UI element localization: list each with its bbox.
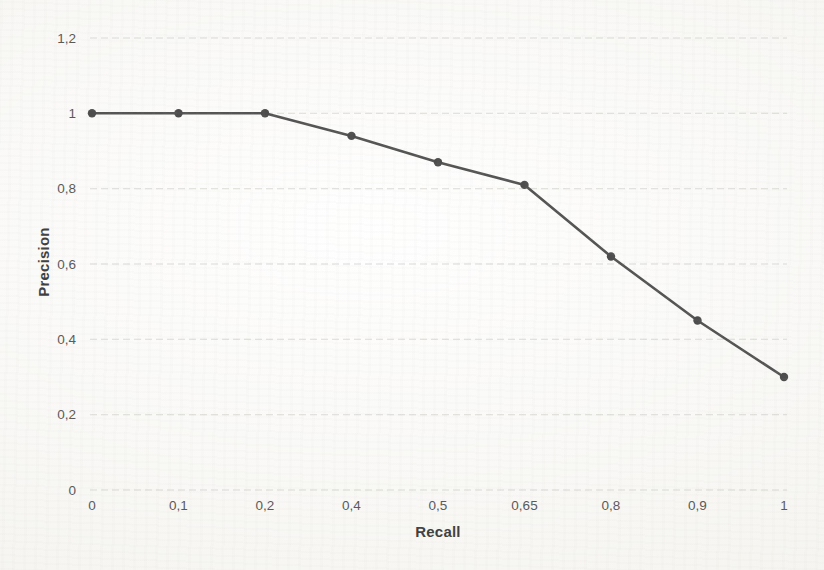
y-tick-label: 1 <box>68 106 76 121</box>
y-tick-label: 0 <box>68 483 76 498</box>
x-axis-title: Recall <box>415 523 460 540</box>
x-tick-label: 1 <box>780 498 788 513</box>
data-point-marker <box>780 373 788 381</box>
data-point-marker <box>174 109 182 117</box>
series-line <box>92 113 784 377</box>
data-point-marker <box>607 252 615 260</box>
x-tick-label: 0,5 <box>429 498 448 513</box>
y-axis-title: Precision <box>35 227 52 296</box>
x-tick-label: 0,9 <box>688 498 707 513</box>
precision-recall-chart: 00,20,40,60,811,200,10,20,40,50,650,80,9… <box>0 0 824 570</box>
data-point-marker <box>261 109 269 117</box>
data-point-marker <box>434 158 442 166</box>
y-tick-label: 0,6 <box>57 257 76 272</box>
x-tick-label: 0,65 <box>511 498 537 513</box>
data-point-marker <box>693 316 701 324</box>
x-tick-label: 0 <box>88 498 96 513</box>
x-tick-label: 0,1 <box>169 498 188 513</box>
data-point-marker <box>520 181 528 189</box>
y-tick-label: 1,2 <box>57 31 76 46</box>
x-tick-label: 0,2 <box>256 498 275 513</box>
data-point-marker <box>88 109 96 117</box>
data-point-marker <box>347 132 355 140</box>
x-tick-label: 0,8 <box>602 498 621 513</box>
y-tick-label: 0,2 <box>57 407 76 422</box>
x-tick-label: 0,4 <box>342 498 361 513</box>
y-tick-label: 0,8 <box>57 181 76 196</box>
y-tick-label: 0,4 <box>57 332 76 347</box>
chart-canvas: 00,20,40,60,811,200,10,20,40,50,650,80,9… <box>0 0 824 570</box>
